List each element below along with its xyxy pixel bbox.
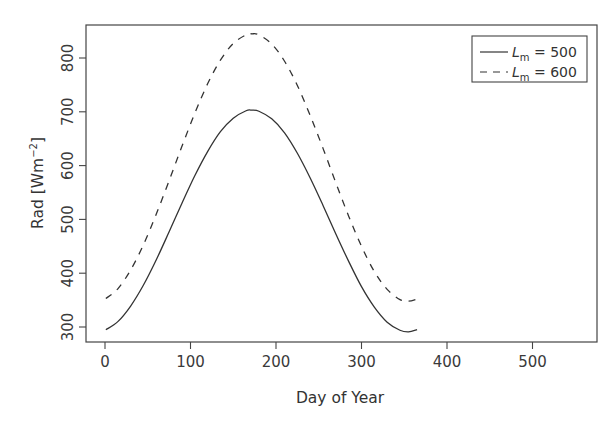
x-tick-label: 100: [176, 353, 205, 371]
x-tick-label: 400: [433, 353, 462, 371]
x-axis-label: Day of Year: [296, 389, 385, 407]
x-axis: 0100200300400500: [100, 342, 547, 371]
series-layer: [106, 34, 417, 332]
y-tick-label: 500: [59, 205, 77, 234]
y-tick-label: 300: [59, 313, 77, 342]
x-tick-label: 300: [347, 353, 376, 371]
y-tick-label: 700: [59, 97, 77, 126]
series-line-lm500: [106, 110, 417, 332]
x-tick-label: 500: [518, 353, 547, 371]
y-tick-label: 600: [59, 151, 77, 180]
y-axis: 300400500600700800: [59, 44, 86, 342]
legend: Lm = 500Lm = 600: [472, 36, 587, 83]
y-axis-label: Rad [Wm−2]: [28, 137, 47, 229]
y-tick-label: 400: [59, 259, 77, 288]
series-line-lm600: [106, 34, 417, 302]
x-tick-label: 0: [100, 353, 110, 371]
line-chart: 300400500600700800 0100200300400500 Lm =…: [0, 0, 615, 429]
y-tick-label: 800: [59, 44, 77, 73]
x-tick-label: 200: [262, 353, 291, 371]
